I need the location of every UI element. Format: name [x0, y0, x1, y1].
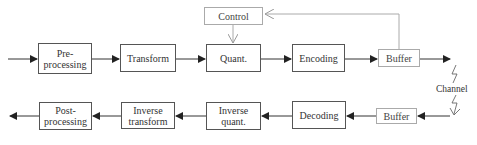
transform-block: Transform [120, 44, 176, 72]
control-block: Control [204, 7, 263, 25]
postprocessing-block: Post- processing [39, 102, 92, 130]
channel-zigzag-top [452, 65, 457, 83]
decoder-buffer-block: Buffer [376, 108, 417, 124]
channel-label: Channel [436, 84, 468, 94]
quant-block: Quant. [206, 44, 261, 72]
inverse-quant-block: Inverse quant. [206, 102, 261, 130]
preprocessing-block: Pre- processing [38, 43, 92, 74]
encoding-block: Encoding [292, 44, 345, 72]
inverse-transform-block: Inverse transform [121, 102, 175, 129]
encoder-buffer-block: Buffer [378, 49, 420, 67]
decoding-block: Decoding [292, 101, 346, 129]
channel-zigzag-bottom [452, 95, 457, 114]
